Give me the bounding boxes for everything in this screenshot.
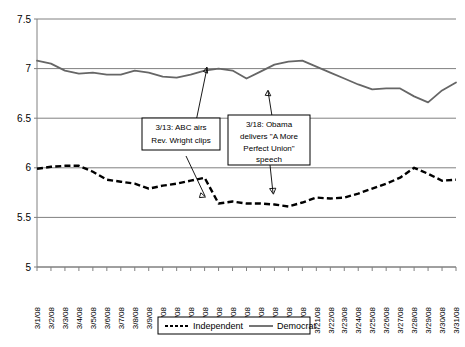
x-tick-label-3/27/08: 3/27/08 — [396, 306, 405, 333]
annotation-wright: 3/13: ABC airs Rev. Wright clips — [142, 67, 220, 198]
x-tick-label-3/22/08: 3/22/08 — [327, 306, 336, 333]
y-axis-labels: 55.566.577.5 — [17, 14, 31, 273]
annotation-wright-line-2: Rev. Wright clips — [151, 136, 210, 145]
x-tick-label-3/23/08: 3/23/08 — [340, 306, 349, 333]
annotation-speech: 3/18: Obama delivers "A More Perfect Uni… — [228, 90, 310, 194]
chart-container: 55.566.577.5 3/1/083/2/083/3/083/4/083/5… — [0, 0, 465, 347]
y-tick-label-7.5: 7.5 — [17, 14, 31, 25]
x-tick-label-3/9/08: 3/9/08 — [145, 306, 154, 329]
x-tick-label-3/7/08: 3/7/08 — [117, 306, 126, 329]
annotation-wright-arrow-down-line — [186, 156, 205, 196]
x-tick-label-3/24/08: 3/24/08 — [354, 306, 363, 333]
x-tick-label-3/1/08: 3/1/08 — [33, 306, 42, 329]
annotation-speech-line-2: delivers "A More — [240, 132, 299, 141]
x-tick-label-3/8/08: 3/8/08 — [131, 306, 140, 329]
y-tick-label-5: 5 — [25, 262, 31, 273]
annotation-speech-line-3: Perfect Union" — [243, 144, 294, 153]
x-tick-label-3/6/08: 3/6/08 — [103, 306, 112, 329]
x-axis-ticks — [37, 267, 456, 271]
y-tick-label-5.5: 5.5 — [17, 212, 31, 223]
x-tick-label-3/28/08: 3/28/08 — [410, 306, 419, 333]
x-tick-label-3/25/08: 3/25/08 — [368, 306, 377, 333]
x-tick-label-3/4/08: 3/4/08 — [75, 306, 84, 329]
annotation-wright-line-1: 3/13: ABC airs — [155, 123, 206, 132]
x-tick-label-3/2/08: 3/2/08 — [47, 306, 56, 329]
line-chart: 55.566.577.5 3/1/083/2/083/3/083/4/083/5… — [0, 0, 465, 347]
y-tick-label-7: 7 — [25, 63, 31, 74]
annotation-speech-line-4: speech — [256, 155, 282, 164]
x-tick-label-3/3/08: 3/3/08 — [61, 306, 70, 329]
legend-label-independent: Independent — [193, 321, 244, 331]
y-tick-label-6.5: 6.5 — [17, 113, 31, 124]
x-tick-label-3/5/08: 3/5/08 — [89, 306, 98, 329]
y-tick-label-6: 6 — [25, 162, 31, 173]
x-tick-label-3/29/08: 3/29/08 — [424, 306, 433, 333]
x-tick-label-3/30/08: 3/30/08 — [438, 306, 447, 333]
chart-legend: Independent Democrat — [158, 317, 317, 334]
series-line-democrat — [37, 61, 456, 103]
series-line-independent — [37, 166, 456, 207]
x-tick-label-3/31/08: 3/31/08 — [452, 306, 461, 333]
annotation-speech-line-1: 3/18: Obama — [246, 120, 293, 129]
x-tick-label-3/26/08: 3/26/08 — [382, 306, 391, 333]
legend-label-democrat: Democrat — [277, 321, 317, 331]
